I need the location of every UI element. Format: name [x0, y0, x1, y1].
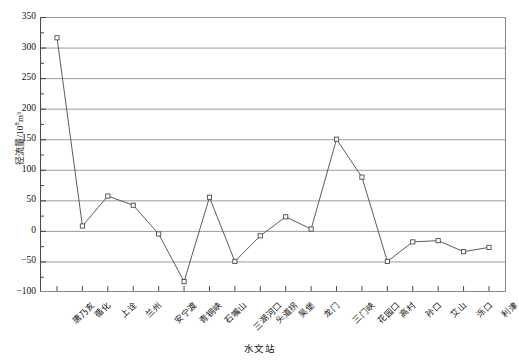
data-point-marker [55, 36, 59, 40]
y-axis-tick-label: −100 [6, 287, 36, 297]
x-axis-tick-label: 青铜峡 [196, 298, 224, 326]
x-axis-tick-label: 泺口 [473, 298, 494, 319]
data-point-marker [182, 280, 186, 284]
data-point-marker [233, 259, 237, 263]
data-point-markers [55, 36, 491, 284]
data-point-marker [258, 234, 262, 238]
data-point-marker [309, 227, 313, 231]
data-point-marker [411, 240, 415, 244]
x-axis-tick-labels: 唐乃亥循化上诠兰州安宁渡青铜峡石嘴山三湖河口头道拐吴堡龙门三门峡花园口高村孙口艾… [40, 292, 506, 342]
gridlines [41, 18, 505, 262]
runoff-line-chart: 径流量/108m³ 350300250200150100500−50−100 唐… [0, 0, 519, 361]
plot-svg [40, 17, 506, 292]
x-axis-tick-label: 吴堡 [295, 298, 316, 319]
x-axis-tick-label: 高村 [397, 298, 418, 319]
x-axis-tick-label: 孙口 [422, 298, 443, 319]
data-point-marker [106, 194, 110, 198]
data-point-marker [487, 245, 491, 249]
data-point-marker [131, 203, 135, 207]
data-point-marker [461, 250, 465, 254]
data-point-marker [284, 215, 288, 219]
data-point-marker [207, 195, 211, 199]
data-point-marker [385, 259, 389, 263]
y-axis-minor-ticks [41, 33, 44, 277]
y-axis-tick-label: −50 [6, 256, 36, 266]
y-axis-tick-label: 300 [6, 43, 36, 53]
data-point-marker [80, 224, 84, 228]
y-axis-tick-label: 50 [6, 195, 36, 205]
x-axis-tick-label: 安宁渡 [171, 298, 199, 326]
x-axis-title: 水文站 [0, 341, 519, 355]
plot-area [40, 17, 506, 292]
x-axis-tick-label: 上诠 [117, 298, 138, 319]
x-axis-tick-label: 兰州 [143, 298, 164, 319]
data-point-marker [334, 137, 338, 141]
data-series-line [57, 38, 489, 282]
data-point-marker [360, 175, 364, 179]
x-axis-tick-label: 龙门 [320, 298, 341, 319]
data-point-marker [436, 239, 440, 243]
y-axis-tick-label: 0 [6, 226, 36, 236]
y-axis-tick-label: 150 [6, 134, 36, 144]
x-axis-ticks [57, 286, 489, 291]
x-axis-tick-label: 循化 [92, 298, 113, 319]
y-axis-tick-label: 250 [6, 73, 36, 83]
data-point-marker [157, 232, 161, 236]
y-axis-tick-label: 100 [6, 165, 36, 175]
x-axis-tick-label: 利津 [498, 298, 519, 319]
y-axis-tick-label: 350 [6, 12, 36, 22]
x-axis-tick-label: 三门峡 [349, 298, 377, 326]
x-axis-tick-label: 艾山 [448, 298, 469, 319]
y-axis-tick-label: 200 [6, 104, 36, 114]
x-axis-tick-label: 石嘴山 [221, 298, 249, 326]
y-axis-tick-labels: 350300250200150100500−50−100 [0, 0, 36, 361]
